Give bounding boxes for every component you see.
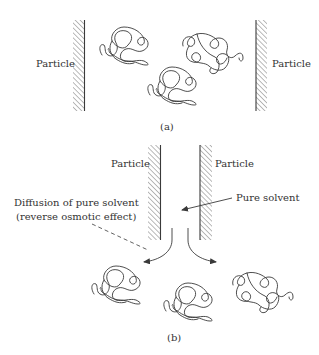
particle-wall-right-a <box>256 20 267 111</box>
polymer-coil-icon <box>233 272 293 312</box>
particle-label-right-b: Particle <box>215 158 254 169</box>
particle-label-right-a: Particle <box>272 58 311 69</box>
polymer-coil-icon <box>92 266 140 304</box>
polymer-coil-icon <box>148 67 196 105</box>
particle-label-left-a: Particle <box>36 58 75 69</box>
particle-wall-right-b <box>200 145 212 240</box>
diffusion-dashed-line <box>92 224 148 250</box>
pure-solvent-label: Pure solvent <box>236 192 299 203</box>
panel-b-caption: (b) <box>167 332 181 343</box>
polymer-coil-icon <box>183 33 243 73</box>
diffusion-label-line1: Diffusion of pure solvent <box>14 197 139 208</box>
polymer-coil-icon <box>164 283 212 321</box>
polymer-coil-icon <box>100 27 148 65</box>
panel-a-caption: (a) <box>160 121 174 132</box>
panel-b: Particle Particle Pure solvent Diffusion… <box>14 145 299 343</box>
osmotic-effect-diagram: Particle Particle (a) Particle <box>0 0 319 355</box>
panel-a: Particle Particle (a) <box>36 20 311 132</box>
particle-label-left-b: Particle <box>111 158 150 169</box>
diffusion-label-line2: (reverse osmotic effect) <box>16 211 136 222</box>
